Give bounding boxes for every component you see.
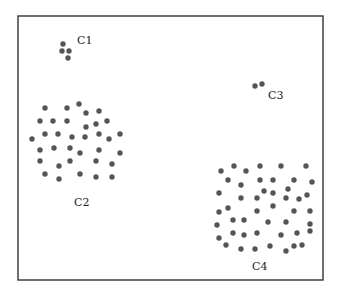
data-point xyxy=(304,192,309,197)
data-point xyxy=(29,136,34,141)
data-point xyxy=(309,179,314,184)
data-point xyxy=(56,163,61,168)
data-point xyxy=(254,208,259,213)
data-point xyxy=(283,248,288,253)
data-point xyxy=(50,118,55,123)
data-point xyxy=(238,195,243,200)
data-point xyxy=(42,105,47,110)
data-point xyxy=(225,205,230,210)
data-point xyxy=(257,163,262,168)
data-point xyxy=(93,121,98,126)
cluster-label: C4 xyxy=(252,260,267,273)
data-point xyxy=(59,48,64,53)
data-point xyxy=(93,174,98,179)
data-point xyxy=(55,131,60,136)
data-point xyxy=(307,221,312,226)
data-point xyxy=(238,182,243,187)
data-point xyxy=(291,208,296,213)
data-point xyxy=(216,190,221,195)
data-point xyxy=(67,145,72,150)
cluster-c2: C2 xyxy=(29,101,122,209)
data-point xyxy=(96,131,101,136)
data-point xyxy=(76,101,81,106)
data-point xyxy=(278,163,283,168)
data-point xyxy=(259,81,264,86)
cluster-diagram: C1C2C3C4 xyxy=(0,0,340,292)
data-point xyxy=(104,118,109,123)
data-point xyxy=(257,177,262,182)
data-point xyxy=(218,168,223,173)
data-point xyxy=(230,230,235,235)
cluster-c1: C1 xyxy=(59,34,92,61)
data-point xyxy=(238,246,243,251)
data-point xyxy=(42,171,47,176)
data-point xyxy=(106,136,111,141)
data-point xyxy=(299,242,304,247)
data-point xyxy=(230,217,235,222)
cluster-label: C2 xyxy=(74,196,89,209)
data-point xyxy=(291,243,296,248)
data-point xyxy=(254,230,259,235)
data-point xyxy=(231,163,236,168)
data-point xyxy=(77,150,82,155)
data-point xyxy=(270,190,275,195)
data-point xyxy=(283,219,288,224)
data-point xyxy=(296,196,301,201)
data-point xyxy=(117,131,122,136)
data-point xyxy=(294,230,299,235)
cluster-c3: C3 xyxy=(252,81,283,102)
data-point xyxy=(223,242,228,247)
data-point xyxy=(66,48,71,53)
data-point xyxy=(109,174,114,179)
data-point xyxy=(69,134,74,139)
data-point xyxy=(303,163,308,168)
data-point xyxy=(278,232,283,237)
data-point xyxy=(214,222,219,227)
data-point xyxy=(252,246,257,251)
data-point xyxy=(67,158,72,163)
data-point xyxy=(270,177,275,182)
data-point xyxy=(225,177,230,182)
cluster-label: C1 xyxy=(77,34,92,47)
data-point xyxy=(117,150,122,155)
clusters-group: C1C2C3C4 xyxy=(29,34,314,273)
data-point xyxy=(285,186,290,191)
cluster-label: C3 xyxy=(268,89,283,102)
data-point xyxy=(216,209,221,214)
data-point xyxy=(265,219,270,224)
data-point xyxy=(307,208,312,213)
data-point xyxy=(82,134,87,139)
diagram-frame xyxy=(18,16,323,280)
data-point xyxy=(109,161,114,166)
data-point xyxy=(56,176,61,181)
data-point xyxy=(254,195,259,200)
data-point xyxy=(283,195,288,200)
data-point xyxy=(77,171,82,176)
data-point xyxy=(261,188,266,193)
data-point xyxy=(96,147,101,152)
data-point xyxy=(267,243,272,248)
data-point xyxy=(37,147,42,152)
data-point xyxy=(51,145,56,150)
data-point xyxy=(241,217,246,222)
data-point xyxy=(37,118,42,123)
data-point xyxy=(83,110,88,115)
data-point xyxy=(83,124,88,129)
data-point xyxy=(291,177,296,182)
data-point xyxy=(42,131,47,136)
data-point xyxy=(96,108,101,113)
data-point xyxy=(216,235,221,240)
data-point xyxy=(64,118,69,123)
data-point xyxy=(307,228,312,233)
data-point xyxy=(64,105,69,110)
data-point xyxy=(270,203,275,208)
data-point xyxy=(60,41,65,46)
data-point xyxy=(241,232,246,237)
cluster-c4: C4 xyxy=(214,163,314,273)
data-point xyxy=(252,83,257,88)
data-point xyxy=(65,55,70,60)
data-point xyxy=(93,158,98,163)
data-point xyxy=(243,168,248,173)
data-point xyxy=(37,158,42,163)
